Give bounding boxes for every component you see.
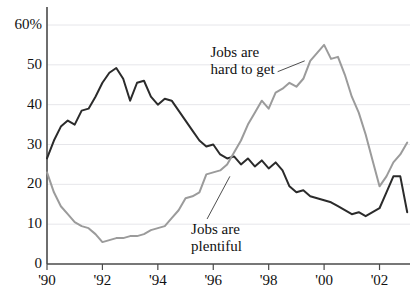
x-tick-label-1996: '96 [193,273,233,288]
annotation-plentiful-line1: Jobs are [191,221,240,237]
annotation-leader-lines-group [207,61,305,219]
x-tick-label-2000: '00 [304,273,344,288]
x-tick-label-1992: '92 [82,273,122,288]
x-tick-marks-group [47,264,380,270]
series-annotation-jobs-hard-to-get: Jobs are hard to get [210,44,274,78]
consumer-confidence-line-chart: 0102030405060% '90'92'94'96'98'00'02 Job… [0,0,414,308]
y-tick-label-50: 50 [27,57,42,72]
x-tick-label-1998: '98 [249,273,289,288]
y-tick-label-0: 0 [35,256,43,271]
x-tick-label-2002: '02 [360,273,400,288]
series-annotation-jobs-plentiful: Jobs are plentiful [191,221,242,255]
leader-line-jobs-plentiful [207,176,230,219]
y-tick-label-10: 10 [27,216,42,231]
y-tick-label-30: 30 [27,137,42,152]
leader-line-jobs-hard-to-get [278,61,305,72]
annotation-plentiful-line2: plentiful [191,238,242,255]
annotation-hard-line2: hard to get [210,61,274,78]
series-line-jobs-hard-to-get [47,68,407,216]
y-tick-label-40: 40 [27,97,42,112]
y-tick-label-20: 20 [27,176,42,191]
x-tick-label-1994: '94 [138,273,178,288]
annotation-hard-line1: Jobs are [210,44,259,60]
x-tick-label-1990: '90 [27,273,67,288]
y-tick-label-60: 60% [15,17,43,32]
chart-plot-area [0,0,414,308]
